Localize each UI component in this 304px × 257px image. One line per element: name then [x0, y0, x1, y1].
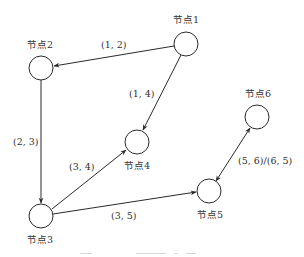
- figure-caption-clipped: [80, 253, 220, 257]
- node-label-2: 节点2: [27, 39, 53, 50]
- node-label-3: 节点3: [27, 234, 53, 245]
- edge-label-2-3: (2, 3): [13, 136, 39, 147]
- node-4: 节点4: [124, 130, 150, 171]
- node-label-6: 节点6: [245, 88, 271, 99]
- node-3: 节点3: [27, 204, 53, 245]
- edge-label-1-4: (1, 4): [129, 88, 155, 99]
- node-1: 节点1: [173, 14, 199, 56]
- edge-3-4: [52, 150, 126, 209]
- node-5: 节点5: [197, 179, 223, 220]
- edge-label-3-5: (3, 5): [111, 210, 137, 221]
- edge-label-1-2: (1, 2): [101, 39, 127, 50]
- directed-graph: (1, 2) (1, 4) (2, 3) (3, 4) (3, 5) (5, 6…: [0, 0, 304, 257]
- edge-label-5-6: (5, 6)/(6, 5): [238, 155, 292, 166]
- edge-label-3-4: (3, 4): [69, 161, 95, 172]
- node-6: 节点6: [245, 88, 271, 129]
- node-label-1: 节点1: [173, 14, 199, 25]
- node-label-5: 节点5: [197, 209, 223, 220]
- node-2: 节点2: [27, 39, 53, 80]
- node-label-4: 节点4: [124, 160, 150, 171]
